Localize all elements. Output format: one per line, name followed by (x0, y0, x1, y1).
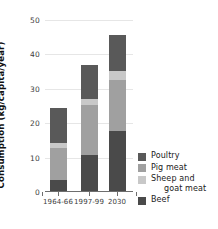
legend-item[interactable]: Poultry (138, 151, 218, 161)
y-axis-tick-label: 0 (35, 188, 40, 197)
legend-item[interactable]: Sheep andgoat meat (138, 174, 218, 193)
legend-item[interactable]: Pig meat (138, 163, 218, 173)
y-axis-tick-label: 40 (30, 50, 40, 59)
legend-swatch (138, 153, 146, 161)
y-axis-label: Consumption (kg/capita/year) (0, 41, 6, 188)
bar-segment-beef[interactable] (50, 180, 67, 191)
y-axis-line (45, 20, 46, 192)
y-axis-tick-label: 10 (30, 153, 40, 162)
bar-segment-beef[interactable] (109, 131, 126, 191)
x-axis-tick-label: 1997-99 (74, 198, 104, 206)
bar-segment-pig-meat[interactable] (81, 105, 98, 155)
y-axis-tick-label: 30 (30, 84, 40, 93)
legend-item[interactable]: Beef (138, 195, 218, 205)
x-axis-tick-label: 2030 (108, 198, 126, 206)
gridline (45, 20, 133, 21)
bar-segment-beef[interactable] (81, 155, 98, 191)
bar-segment-poultry[interactable] (81, 65, 98, 99)
plot-area: 010203040501964-661997-992030 (45, 20, 133, 192)
bar-segment-poultry[interactable] (50, 108, 67, 142)
y-axis-tick-label: 50 (30, 16, 40, 25)
x-axis-tick-mark (117, 192, 118, 196)
legend-swatch (138, 176, 146, 184)
bar-segment-poultry[interactable] (109, 35, 126, 71)
bar-segment-sheep-and-goat-meat[interactable] (109, 71, 126, 80)
bar-segment-pig-meat[interactable] (109, 80, 126, 131)
x-axis-tick-mark (89, 192, 90, 196)
y-axis-tick-label: 20 (30, 119, 40, 128)
bar-2030[interactable] (109, 35, 126, 191)
legend-label: Pig meat (151, 163, 187, 173)
x-axis-end-cap (42, 192, 43, 196)
bar-1997-99[interactable] (81, 65, 98, 191)
x-axis-tick-label: 1964-66 (43, 198, 73, 206)
chart-legend: PoultryPig meatSheep andgoat meatBeef (138, 151, 218, 207)
legend-label-line2: goat meat (151, 184, 206, 194)
stacked-bar-chart: Consumption (kg/capita/year) 01020304050… (0, 0, 218, 229)
x-axis-end-cap (136, 192, 137, 196)
legend-label: Sheep andgoat meat (151, 174, 206, 193)
legend-label: Beef (151, 195, 170, 205)
x-axis-tick-mark (58, 192, 59, 196)
bar-1964-66[interactable] (50, 108, 67, 191)
legend-swatch (138, 164, 146, 172)
legend-swatch (138, 197, 146, 205)
bar-segment-pig-meat[interactable] (50, 148, 67, 180)
legend-label: Poultry (151, 151, 180, 161)
